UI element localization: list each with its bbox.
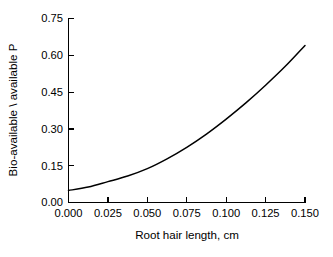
y-tick-label: 0.15 [41,160,63,172]
y-axis-title: Bio-available \ available P [6,43,19,176]
x-tick-label: 0.000 [55,207,83,219]
chart-figure: 0.00 0.15 0.30 0.45 0.60 0.75 0.000 0.02… [0,0,333,257]
x-tick-labels: 0.000 0.025 0.050 0.075 0.100 0.125 0.15… [55,207,320,219]
y-tick-label: 0.30 [41,123,63,135]
plot-area: 0.00 0.15 0.30 0.45 0.60 0.75 0.000 0.02… [0,0,333,257]
x-tick-label: 0.050 [133,207,161,219]
y-tick-label: 0.60 [41,49,63,61]
x-tick-label: 0.150 [291,207,319,219]
x-tick-label: 0.025 [94,207,122,219]
x-tick-label: 0.075 [173,207,201,219]
x-axis-title: Root hair length, cm [135,228,239,241]
y-tick-label: 0.45 [41,86,63,98]
y-tick-label: 0.75 [41,12,63,24]
x-tick-label: 0.125 [252,207,280,219]
x-tick-label: 0.100 [212,207,240,219]
